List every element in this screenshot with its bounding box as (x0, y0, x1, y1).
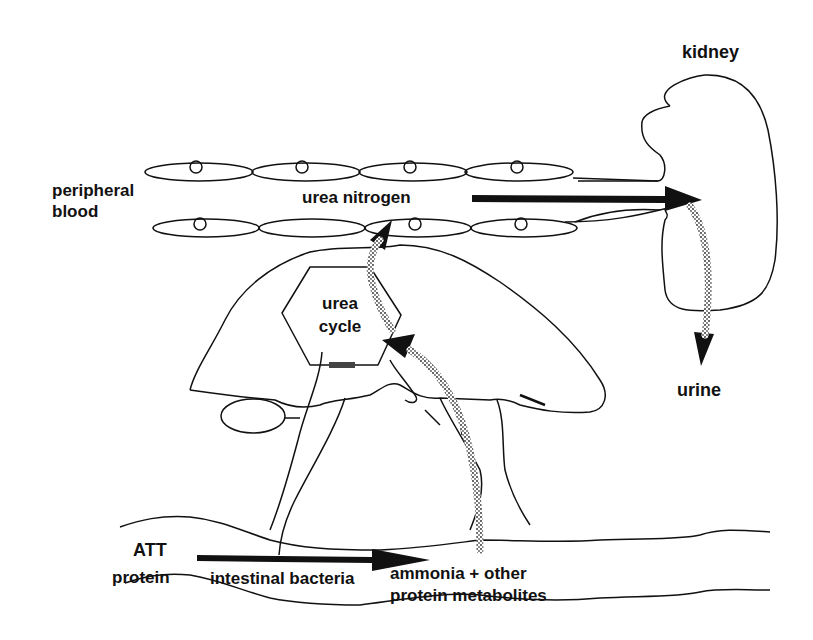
arrow-to-kidney (472, 186, 702, 211)
dotted-arrow-metabolites-to-liver (410, 350, 480, 550)
ammonia-label-line1: ammonia + other (390, 563, 527, 584)
dotted-arrow-kidney-to-urine (690, 206, 708, 335)
intestine-upper-wall (120, 517, 770, 550)
intestinal-bacteria-label: intestinal bacteria (210, 568, 355, 589)
diagram-drawing (0, 0, 813, 640)
gallbladder-outline (221, 399, 285, 433)
diagram-canvas: kidney peripheral blood urea nitrogen ur… (0, 0, 813, 640)
ammonia-label-line2: protein metabolites (390, 585, 547, 606)
blood-cells-bottom (153, 210, 660, 238)
kidney-label: kidney (682, 42, 739, 63)
urea-cycle-label-line1: urea (305, 293, 375, 314)
urea-cycle-label-line2: cycle (305, 316, 375, 337)
protein-label: protein (112, 567, 170, 588)
urine-label: urine (677, 380, 721, 401)
liver-outline (190, 245, 605, 413)
peripheral-blood-label-line2: blood (52, 201, 98, 222)
att-label: ATT (133, 540, 167, 561)
peripheral-blood-label-line1: peripheral (52, 180, 134, 201)
blood-cells-top (145, 161, 658, 181)
liver-lobe-line (390, 360, 417, 402)
urea-nitrogen-label: urea nitrogen (302, 187, 411, 208)
